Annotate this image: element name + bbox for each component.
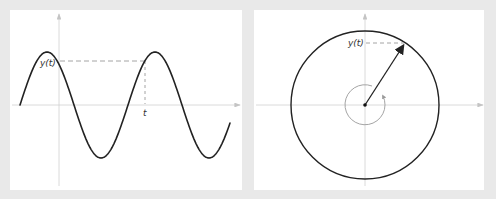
- phasor-diagram: y(t): [254, 10, 484, 190]
- phasor-arrow: [365, 46, 403, 105]
- y-value-label: y(t): [347, 38, 364, 48]
- sine-wave-diagram: y(t) t: [10, 10, 242, 190]
- time-domain-panel: y(t) t: [10, 10, 242, 190]
- time-label: t: [143, 108, 147, 118]
- y-value-label: y(t): [39, 58, 56, 68]
- phasor-panel: y(t): [254, 10, 484, 190]
- origin-dot: [363, 103, 367, 107]
